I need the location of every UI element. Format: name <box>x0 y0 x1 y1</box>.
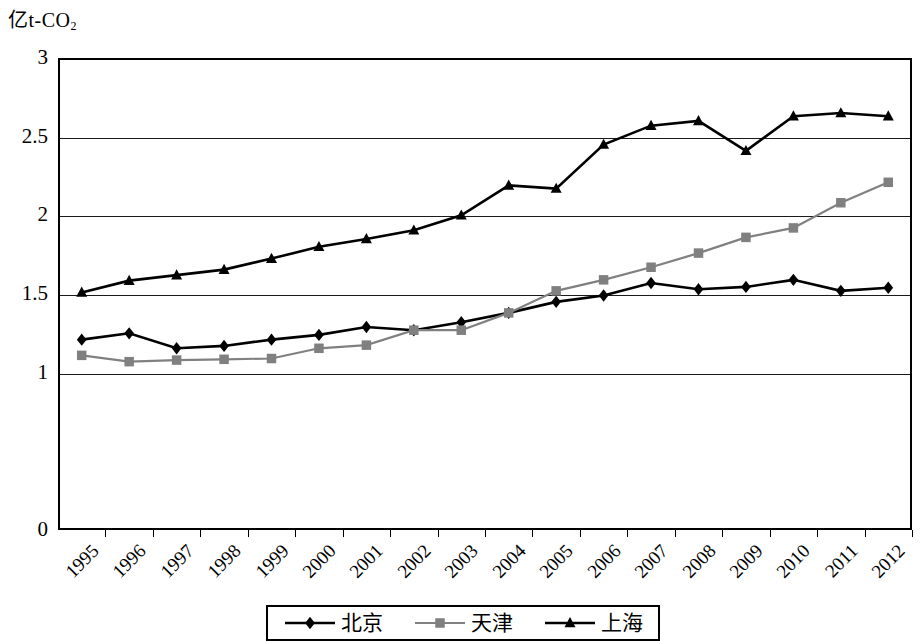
data-point-marker <box>409 325 419 335</box>
data-point-marker <box>314 344 324 354</box>
legend-label: 天津 <box>471 613 513 634</box>
data-point-marker <box>362 321 372 333</box>
data-point-marker <box>694 283 704 295</box>
data-point-marker <box>219 340 229 352</box>
data-point-marker <box>457 325 467 335</box>
data-point-marker <box>884 178 894 188</box>
data-point-marker <box>267 333 277 345</box>
legend-item-上海[interactable]: 上海 <box>543 613 643 634</box>
data-point-marker <box>314 329 324 341</box>
data-point-marker <box>551 286 561 296</box>
data-point-marker <box>599 289 609 301</box>
data-point-marker <box>124 357 133 367</box>
data-point-marker <box>172 355 182 365</box>
data-point-marker <box>789 223 799 233</box>
data-point-marker <box>789 274 799 286</box>
data-point-marker <box>646 277 656 289</box>
series-上海 <box>76 107 894 297</box>
series-line <box>82 113 889 292</box>
legend-marker-diamond-icon <box>283 614 337 632</box>
legend-label: 上海 <box>601 613 643 634</box>
data-point-marker <box>694 248 704 257</box>
chart-legend: 北京天津上海 <box>266 605 660 641</box>
data-point-marker <box>267 354 277 364</box>
series-line <box>82 280 889 348</box>
data-point-marker <box>504 308 514 318</box>
data-series-layer <box>0 0 920 641</box>
data-point-marker <box>741 233 751 243</box>
legend-marker-triangle-icon <box>543 614 597 632</box>
data-point-marker <box>219 355 229 365</box>
data-point-marker <box>551 296 561 308</box>
data-point-marker <box>172 342 182 354</box>
legend-item-北京[interactable]: 北京 <box>283 613 383 634</box>
legend-marker-square-icon <box>413 614 467 632</box>
legend-item-天津[interactable]: 天津 <box>413 613 513 634</box>
series-北京 <box>77 274 893 355</box>
data-point-marker <box>836 285 846 297</box>
data-point-marker <box>456 209 467 219</box>
data-point-marker <box>836 198 846 208</box>
data-point-marker <box>599 275 609 285</box>
line-chart: 亿t-CO2 011.522.53 1995199619971998199920… <box>0 0 920 641</box>
data-point-marker <box>124 327 134 339</box>
data-point-marker <box>646 263 656 273</box>
data-point-marker <box>77 333 87 345</box>
data-point-marker <box>883 282 893 294</box>
data-point-marker <box>362 340 372 350</box>
data-point-marker <box>77 351 87 361</box>
data-point-marker <box>741 281 751 293</box>
legend-label: 北京 <box>341 613 383 634</box>
